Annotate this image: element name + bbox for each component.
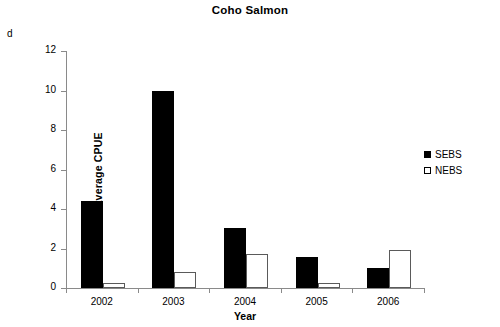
x-axis-title: Year (66, 310, 424, 322)
plot-area: Average CPUE (66, 51, 424, 288)
y-axis-tick-label: 0 (26, 281, 56, 293)
y-axis-tick-label: 4 (26, 202, 56, 214)
filled-black-square-icon (424, 151, 431, 158)
y-axis-tick-label: 10 (26, 84, 56, 96)
x-axis-tick (138, 288, 139, 293)
chart-title: Coho Salmon (0, 4, 500, 16)
bar-nebs-2004 (246, 254, 268, 288)
y-axis-tick-label: 6 (26, 163, 56, 175)
x-axis-line (66, 288, 424, 289)
x-axis-tick (66, 288, 67, 293)
bar-nebs-2006 (389, 250, 411, 289)
bar-sebs-2004 (224, 228, 246, 288)
y-axis-tick: 12 (61, 51, 66, 52)
y-axis-tick-label: 2 (26, 242, 56, 254)
x-axis-tick-label: 2002 (67, 296, 137, 308)
y-axis-tick: 4 (61, 209, 66, 210)
x-axis-tick-label: 2005 (282, 296, 352, 308)
x-axis-tick-label: 2003 (138, 296, 208, 308)
bar-nebs-2002 (103, 283, 125, 288)
bar-sebs-2002 (81, 201, 103, 288)
chart-figure: Coho Salmon d Average CPUE 024681012 200… (0, 0, 500, 327)
x-axis-tick (281, 288, 282, 293)
legend-item-nebs: NEBS (424, 162, 498, 178)
y-axis-tick: 10 (61, 91, 66, 92)
y-axis-tick: 6 (61, 170, 66, 171)
y-axis-tick: 8 (61, 130, 66, 131)
x-axis-tick (209, 288, 210, 293)
bar-sebs-2003 (152, 91, 174, 289)
legend-item-sebs: SEBS (424, 146, 498, 162)
chart-legend: SEBSNEBS (424, 146, 498, 178)
open-white-square-icon (424, 167, 431, 174)
bar-sebs-2005 (296, 257, 318, 288)
x-axis-tick-label: 2004 (210, 296, 280, 308)
bar-sebs-2006 (367, 268, 389, 288)
legend-label: SEBS (435, 149, 462, 160)
y-axis-tick-label: 8 (26, 123, 56, 135)
bar-nebs-2003 (174, 272, 196, 288)
y-axis-tick: 2 (61, 249, 66, 250)
panel-label: d (7, 28, 13, 39)
legend-label: NEBS (435, 165, 462, 176)
y-axis-tick-label: 12 (26, 44, 56, 56)
x-axis-tick-label: 2006 (353, 296, 423, 308)
x-axis-tick (424, 288, 425, 293)
x-axis-tick (352, 288, 353, 293)
bar-nebs-2005 (318, 283, 340, 288)
